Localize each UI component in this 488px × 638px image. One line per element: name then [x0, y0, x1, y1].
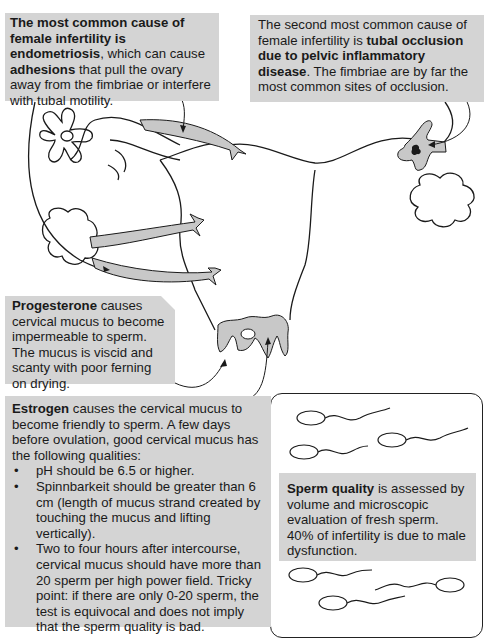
adhesions-term: adhesions — [10, 62, 75, 77]
adhesion-band-middle — [90, 214, 204, 248]
tubal-occlusion-callout: The second most common cause of female i… — [250, 15, 484, 102]
sperm-quality-term: Sperm quality — [287, 481, 374, 496]
list-item: Two to four hours after intercourse, cer… — [12, 541, 264, 635]
occluded-fimbria — [398, 121, 446, 171]
sperm-quality-callout: Sperm quality is assessed by volume and … — [279, 473, 476, 561]
right-ovary — [410, 173, 474, 227]
adhesion-band-lower — [92, 258, 221, 285]
endometriosis-callout: The most common cause of female infertil… — [5, 13, 219, 101]
progesterone-callout: Progesterone causes cervical mucus to be… — [5, 296, 175, 384]
list-item: Spinnbarkeit should be greater than 6 cm… — [12, 479, 264, 541]
mucus-qualities-list: pH should be 6.5 or higher. Spinnbarkeit… — [12, 463, 264, 635]
estrogen-callout: Estrogen causes the cervical mucus to be… — [5, 396, 271, 627]
left-ovary — [43, 208, 98, 264]
progesterone-term: Progesterone — [12, 298, 97, 313]
left-fimbriae — [40, 108, 93, 162]
list-item: pH should be 6.5 or higher. — [12, 463, 264, 479]
estrogen-term: Estrogen — [12, 401, 69, 416]
endometriosis-text-a: , which can cause — [100, 46, 205, 61]
